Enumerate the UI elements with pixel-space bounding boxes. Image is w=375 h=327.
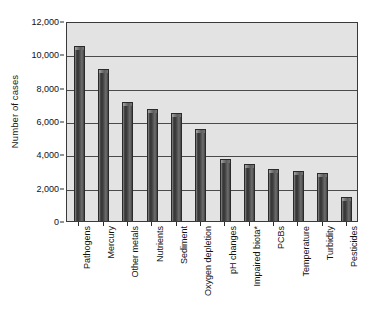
x-tick-label: Turbidity xyxy=(325,226,335,260)
y-axis-title: Number of cases xyxy=(4,0,26,222)
x-tick-mark xyxy=(127,222,128,226)
bar xyxy=(195,129,206,221)
bar-top-cap xyxy=(293,171,304,175)
bar xyxy=(147,109,158,222)
x-tick-mark xyxy=(346,222,347,226)
y-tick-mark xyxy=(60,88,64,89)
y-tick-label: 0 xyxy=(54,217,59,227)
y-tick-mark xyxy=(60,122,64,123)
y-axis-tick-labels: 02,0004,0006,0008,00010,00012,000 xyxy=(24,22,64,222)
bar-top-cap xyxy=(147,109,158,113)
bar-top-cap xyxy=(220,159,231,163)
x-tick-mark xyxy=(273,222,274,226)
x-tick-label: Oxygen depletion xyxy=(203,226,213,296)
bar xyxy=(341,197,352,221)
bar-top-cap xyxy=(98,69,109,73)
y-tick-label: 2,000 xyxy=(36,184,59,194)
bar-top-cap xyxy=(195,129,206,133)
y-tick-mark xyxy=(60,155,64,156)
x-tick-mark xyxy=(200,222,201,226)
x-tick-label: Impaired biota* xyxy=(252,226,262,287)
y-tick-mark xyxy=(60,222,64,223)
bar xyxy=(98,69,109,221)
x-tick-label: Nutrients xyxy=(155,226,165,262)
x-tick-label: Mercury xyxy=(106,226,116,259)
y-tick-label: 12,000 xyxy=(31,17,59,27)
x-tick-mark xyxy=(249,222,250,226)
bar-chart-figure: Number of cases 02,0004,0006,0008,00010,… xyxy=(0,0,375,327)
bar-top-cap xyxy=(171,113,182,117)
bar xyxy=(220,159,231,222)
x-tick-label: Pesticides xyxy=(349,226,359,267)
y-tick-mark xyxy=(60,22,64,23)
x-tick-label: Pathogens xyxy=(82,226,92,269)
x-tick-mark xyxy=(151,222,152,226)
bar xyxy=(171,113,182,221)
x-tick-label: pH changes xyxy=(228,226,238,274)
x-tick-label: PCBs xyxy=(276,226,286,249)
x-tick-mark xyxy=(78,222,79,226)
x-tick-mark xyxy=(176,222,177,226)
x-tick-label: Other metals xyxy=(130,226,140,278)
bar-top-cap xyxy=(268,169,279,173)
y-tick-label: 4,000 xyxy=(36,150,59,160)
bar-top-cap xyxy=(74,46,85,50)
plot-area xyxy=(66,22,358,222)
x-tick-mark xyxy=(322,222,323,226)
y-tick-label: 10,000 xyxy=(31,50,59,60)
bar-top-cap xyxy=(341,197,352,201)
x-tick-mark xyxy=(103,222,104,226)
y-tick-mark xyxy=(60,55,64,56)
bar xyxy=(122,102,133,221)
bar xyxy=(74,46,85,221)
bar xyxy=(293,171,304,221)
bars-group xyxy=(67,23,357,221)
bar-top-cap xyxy=(317,173,328,177)
bar-top-cap xyxy=(122,102,133,106)
y-axis-title-label: Number of cases xyxy=(10,74,21,147)
y-tick-label: 8,000 xyxy=(36,84,59,94)
x-axis-tick-labels: PathogensMercuryOther metalsNutrientsSed… xyxy=(66,222,358,327)
bar-top-cap xyxy=(244,164,255,168)
bar xyxy=(317,173,328,221)
bar xyxy=(268,169,279,222)
x-tick-label: Temperature xyxy=(301,226,311,277)
bar xyxy=(244,164,255,222)
y-tick-mark xyxy=(60,188,64,189)
x-tick-label: Sediment xyxy=(179,226,189,264)
x-tick-mark xyxy=(224,222,225,226)
x-tick-mark xyxy=(297,222,298,226)
y-tick-label: 6,000 xyxy=(36,117,59,127)
